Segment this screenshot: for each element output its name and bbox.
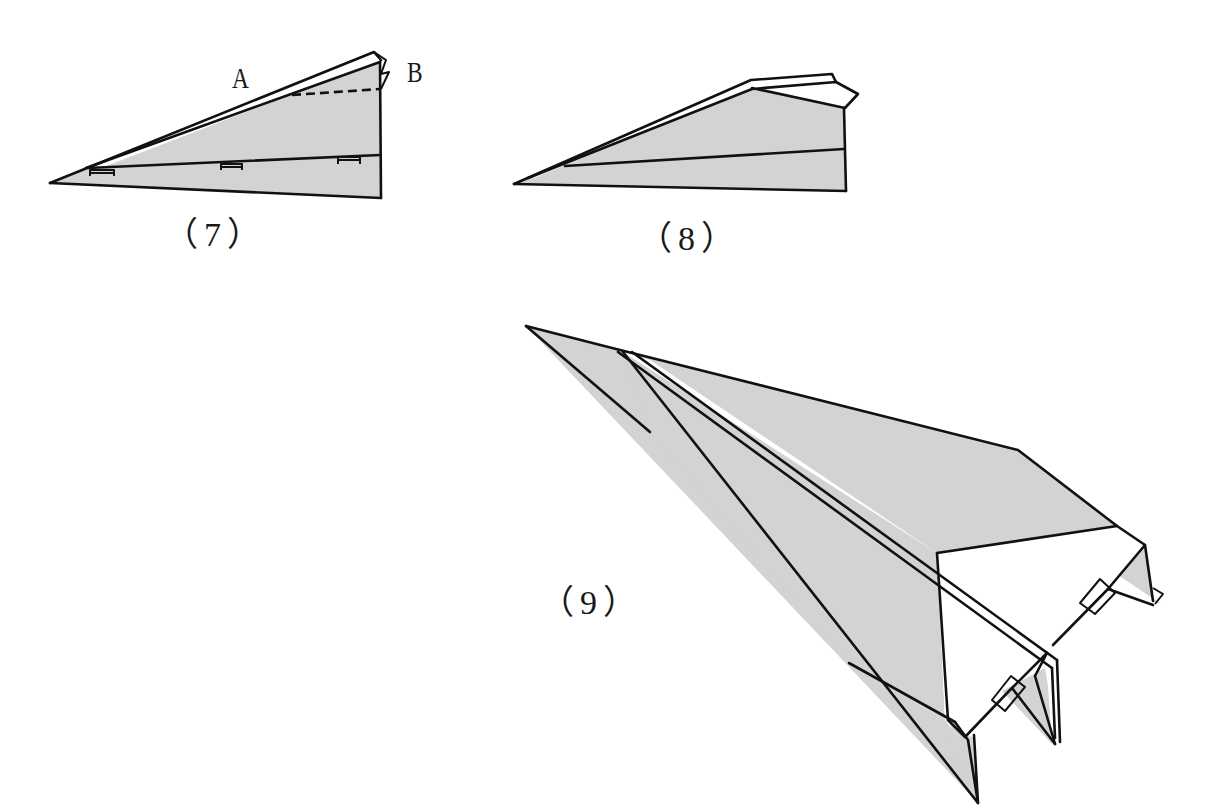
point-label-a: A xyxy=(232,63,249,93)
step-7-figure xyxy=(50,52,389,198)
step-8-figure xyxy=(514,74,858,191)
step-7-label: （7） xyxy=(164,218,267,252)
step-9-label: （9） xyxy=(540,586,643,620)
step-8-label: （8） xyxy=(638,222,741,256)
step-9-figure xyxy=(526,326,1163,803)
point-label-b: B xyxy=(407,57,423,87)
folding-diagram xyxy=(0,0,1217,806)
